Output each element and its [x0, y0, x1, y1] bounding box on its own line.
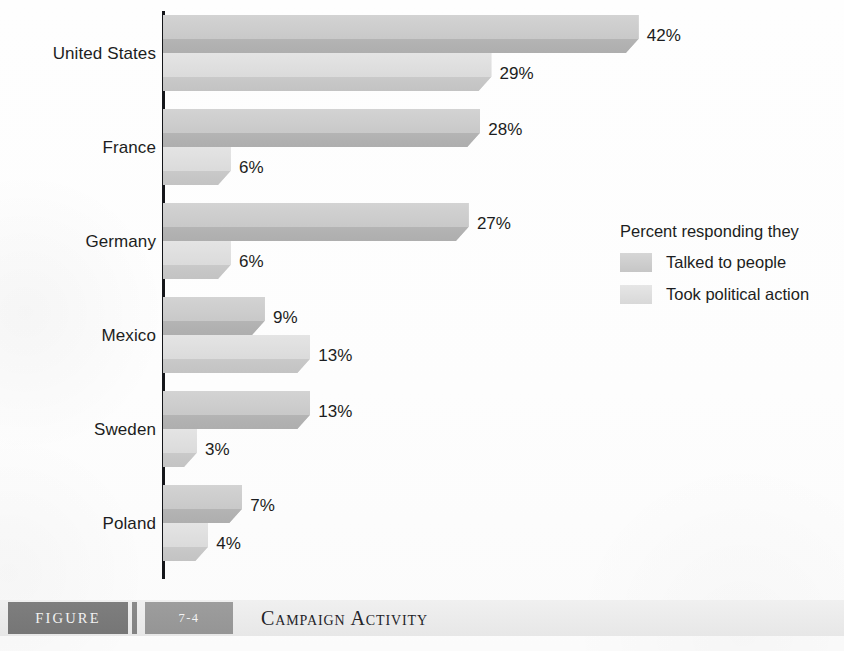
legend-item-talked-to-people: Talked to people [620, 250, 835, 274]
bar-shadow-edge [163, 509, 242, 523]
figure-number-label: 7-4 [179, 611, 200, 626]
bar-sweden-talked-to-people [163, 391, 310, 429]
legend-swatch-took-political-action [620, 285, 652, 304]
bar-shadow-edge [163, 133, 480, 147]
value-label-germany-took-political-action: 6% [239, 253, 264, 270]
category-label-mexico: Mexico [102, 327, 156, 344]
chart-legend: Percent responding they Talked to people… [620, 222, 835, 314]
value-label-mexico-talked-to-people: 9% [273, 309, 298, 326]
category-label-france: France [102, 139, 156, 156]
bar-mexico-took-political-action [163, 335, 310, 373]
legend-title: Percent responding they [620, 222, 835, 240]
figure-word-box: FIGURE [8, 602, 128, 634]
bar-shadow-edge [163, 453, 197, 467]
value-label-sweden-took-political-action: 3% [205, 441, 230, 458]
figure-number-box: 7-4 [145, 602, 233, 634]
bar-france-took-political-action [163, 147, 231, 185]
caption-divider [132, 602, 137, 634]
value-label-france-took-political-action: 6% [239, 159, 264, 176]
legend-item-took-political-action: Took political action [620, 282, 835, 306]
legend-label-took-political-action: Took political action [666, 285, 809, 304]
category-label-sweden: Sweden [94, 421, 156, 438]
bar-germany-talked-to-people [163, 203, 469, 241]
figure-word-label: FIGURE [35, 610, 101, 627]
bar-united-states-took-political-action [163, 53, 492, 91]
value-label-united-states-took-political-action: 29% [500, 65, 534, 82]
bar-shadow-edge [163, 39, 639, 53]
bar-sweden-took-political-action [163, 429, 197, 467]
value-label-poland-took-political-action: 4% [216, 535, 241, 552]
bar-shadow-edge [163, 321, 265, 335]
bar-shadow-edge [163, 415, 310, 429]
category-label-united-states: United States [53, 45, 156, 62]
bar-france-talked-to-people [163, 109, 480, 147]
bar-shadow-edge [163, 227, 469, 241]
value-label-mexico-took-political-action: 13% [318, 347, 352, 364]
bar-germany-took-political-action [163, 241, 231, 279]
figure-caption-bar: FIGURE 7-4 Campaign Activity [0, 600, 844, 636]
bar-shadow-edge [163, 547, 208, 561]
bar-shadow-edge [163, 171, 231, 185]
value-label-france-talked-to-people: 28% [488, 121, 522, 138]
bar-shadow-edge [163, 265, 231, 279]
category-label-germany: Germany [85, 233, 156, 250]
legend-label-talked-to-people: Talked to people [666, 253, 786, 272]
value-label-germany-talked-to-people: 27% [477, 215, 511, 232]
bar-shadow-edge [163, 359, 310, 373]
figure-title: Campaign Activity [261, 607, 428, 630]
bar-poland-talked-to-people [163, 485, 242, 523]
bar-poland-took-political-action [163, 523, 208, 561]
bar-mexico-talked-to-people [163, 297, 265, 335]
value-label-united-states-talked-to-people: 42% [647, 27, 681, 44]
legend-swatch-talked-to-people [620, 253, 652, 272]
value-label-sweden-talked-to-people: 13% [318, 403, 352, 420]
bar-shadow-edge [163, 77, 492, 91]
category-label-poland: Poland [102, 515, 156, 532]
value-label-poland-talked-to-people: 7% [250, 497, 275, 514]
bar-united-states-talked-to-people [163, 15, 639, 53]
